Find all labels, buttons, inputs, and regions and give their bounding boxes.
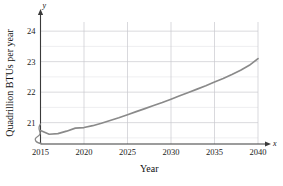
x-axis-symbol: x — [272, 139, 277, 148]
x-tick-label: 2030 — [163, 147, 180, 157]
x-tick-label: 2040 — [250, 147, 267, 157]
y-axis-title: Quadrillion BTUs per year — [4, 29, 15, 137]
x-tick-label: 2015 — [32, 147, 49, 157]
x-tick-label: 2025 — [119, 147, 136, 157]
y-tick-label: 23 — [27, 57, 36, 67]
y-axis-symbol: y — [42, 1, 47, 10]
chart-background — [0, 0, 283, 186]
line-chart: 201520202025203020352040 21222324 x y Ye… — [0, 0, 283, 186]
x-tick-label: 2035 — [206, 147, 223, 157]
chart-figure: 201520202025203020352040 21222324 x y Ye… — [0, 0, 283, 186]
y-tick-label: 21 — [27, 118, 36, 128]
y-tick-label: 24 — [27, 26, 36, 36]
y-tick-label: 22 — [27, 87, 36, 97]
x-tick-label: 2020 — [76, 147, 93, 157]
x-axis-title: Year — [140, 163, 159, 174]
